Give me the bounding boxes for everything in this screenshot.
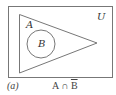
expression-right-complement: B [71,80,78,91]
expression-left: A [52,80,59,91]
caption-label: (a) [7,80,19,91]
set-b-label: B [37,38,45,49]
intersection-operator: ∩ [61,80,68,91]
set-a-label: A [25,19,33,30]
set-expression: A ∩ B [52,80,78,91]
universe-label: U [97,11,106,22]
